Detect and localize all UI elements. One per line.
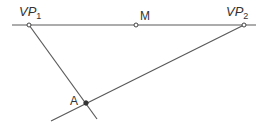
vp1-label-main: VP (19, 4, 37, 19)
m-label: M (140, 9, 150, 23)
vp2-point (242, 23, 246, 27)
vp2-to-a-line (51, 25, 244, 121)
vp1-label-sub: 1 (36, 11, 41, 21)
vp2-label-sub: 2 (243, 11, 248, 21)
vp1-point (27, 23, 31, 27)
vp2-label-main: VP (226, 4, 244, 19)
vp1-label: VP1 (19, 4, 41, 21)
a-label: A (70, 94, 78, 108)
m-point (134, 23, 138, 27)
a-point (84, 101, 88, 105)
vp2-label: VP2 (226, 4, 248, 21)
perspective-diagram: VP1 M VP2 A (0, 0, 271, 126)
